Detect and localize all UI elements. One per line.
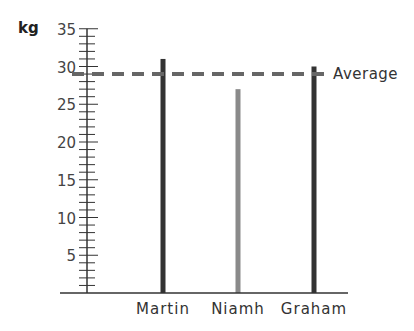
y-axis-unit-label: kg xyxy=(18,19,39,37)
y-tick-label: 20 xyxy=(57,134,76,152)
x-label-niamh: Niamh xyxy=(211,300,265,318)
y-tick-label: 15 xyxy=(57,172,76,190)
x-label-martin: Martin xyxy=(136,300,190,318)
average-label: Average xyxy=(333,65,398,83)
x-label-graham: Graham xyxy=(281,300,347,318)
x-axis-labels: MartinNiamhGraham xyxy=(136,300,347,318)
bar-chart: kg 5101520253035 Average MartinNiamhGrah… xyxy=(0,0,414,331)
y-tick-label: 5 xyxy=(66,247,76,265)
y-tick-label: 25 xyxy=(57,96,76,114)
bar-martin xyxy=(161,59,166,293)
average-line: Average xyxy=(72,65,398,83)
bars xyxy=(161,59,317,293)
y-tick-label: 10 xyxy=(57,210,76,228)
y-tick-label: 35 xyxy=(57,21,76,39)
bar-graham xyxy=(312,67,317,294)
y-axis: 5101520253035 xyxy=(57,21,98,293)
bar-niamh xyxy=(236,89,241,293)
